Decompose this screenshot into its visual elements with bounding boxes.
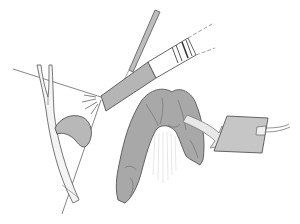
medical-illustration	[0, 0, 300, 224]
illustration-canvas	[0, 0, 300, 224]
pouch	[55, 116, 91, 147]
colon-segment	[116, 89, 204, 203]
